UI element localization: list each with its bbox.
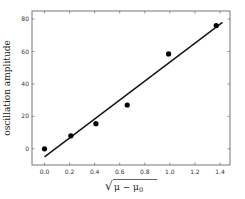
scatter-chart: 0.00.20.40.60.81.01.21.4 020406080 oscil…: [0, 0, 245, 199]
y-tick-label: 60: [21, 48, 29, 55]
y-tick-label: 20: [21, 112, 29, 119]
y-axis-label: oscillation amplitude: [2, 40, 12, 136]
data-point: [42, 146, 47, 151]
data-series: [42, 22, 223, 157]
x-tick-label: 1.2: [190, 168, 200, 175]
plot-frame: [32, 11, 230, 165]
y-axis-ticks: 020406080: [21, 15, 230, 152]
data-point: [214, 23, 219, 28]
y-tick-label: 0: [25, 145, 29, 152]
x-tick-label: 0.4: [90, 168, 100, 175]
x-tick-label: 0.2: [65, 168, 75, 175]
y-tick-label: 40: [21, 80, 29, 87]
data-point: [125, 102, 130, 107]
x-tick-label: 0.0: [40, 168, 50, 175]
sqrt-symbol: √: [105, 179, 113, 193]
x-tick-label: 1.4: [215, 168, 225, 175]
x-axis-label-text: μ − μ0: [114, 182, 143, 194]
y-tick-label: 80: [21, 15, 29, 22]
data-point: [68, 133, 73, 138]
x-tick-label: 1.0: [165, 168, 175, 175]
x-tick-label: 0.6: [115, 168, 125, 175]
x-axis-label: √μ − μ0: [105, 179, 157, 194]
x-axis-ticks: 0.00.20.40.60.81.01.21.4: [40, 11, 225, 175]
data-point: [93, 121, 98, 126]
x-tick-label: 0.8: [140, 168, 150, 175]
data-point: [166, 51, 171, 56]
